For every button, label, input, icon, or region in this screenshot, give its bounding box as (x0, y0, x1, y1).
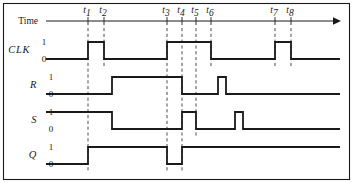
time-marker-subscript: 7 (273, 8, 279, 18)
timing-diagram-figure: Time t1t2t3t4t5t6t7t8 CLK10R10S10Q10 (0, 0, 353, 183)
waveform-s (46, 112, 340, 129)
time-marker-label: t6 (206, 5, 214, 18)
signal-label-q: Q (29, 149, 37, 160)
signal-row-r: R10 (29, 72, 340, 99)
time-marker-label: t2 (99, 5, 107, 18)
signal-waveform-group: CLK10R10S10Q10 (8, 37, 340, 169)
waveform-q (46, 147, 340, 164)
signal-label-s: S (31, 114, 37, 125)
time-marker-subscript: 1 (86, 8, 91, 18)
time-marker-label: t5 (191, 5, 199, 18)
time-axis-arrow-icon (333, 17, 341, 25)
signal-label-r: R (29, 79, 37, 90)
time-marker-label: t4 (177, 5, 185, 18)
time-marker-label: t8 (286, 5, 294, 18)
level-label-low: 0 (49, 124, 54, 134)
time-marker-label: t1 (83, 5, 90, 18)
time-marker-subscript: 3 (164, 8, 170, 18)
time-marker-subscript: 4 (180, 8, 185, 18)
time-marker-subscript: 6 (209, 8, 214, 18)
time-marker-label: t3 (162, 5, 170, 18)
level-label-high: 1 (49, 72, 54, 82)
time-marker-subscript: 8 (289, 8, 294, 18)
signal-row-clk: CLK10 (8, 37, 340, 64)
waveform-r (46, 77, 340, 94)
signal-label-clk: CLK (8, 44, 30, 55)
time-axis-label: Time (18, 16, 38, 26)
time-marker-subscript: 2 (102, 8, 107, 18)
figure-border (4, 4, 350, 180)
timing-diagram-canvas: Time t1t2t3t4t5t6t7t8 CLK10R10S10Q10 (0, 0, 353, 183)
signal-row-s: S10 (31, 107, 340, 134)
level-label-high: 1 (42, 37, 47, 47)
signal-row-q: Q10 (29, 142, 340, 169)
time-marker-subscript: 5 (194, 8, 199, 18)
time-marker-label: t7 (270, 5, 279, 18)
level-label-high: 1 (49, 142, 54, 152)
waveform-clk (46, 42, 340, 59)
